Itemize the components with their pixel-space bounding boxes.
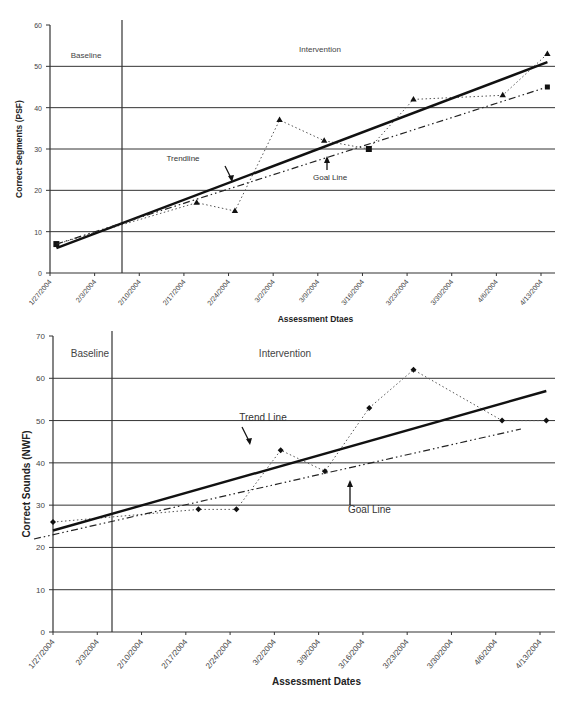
y-tick-label: 30 xyxy=(34,146,42,153)
x-tick-label: 4/13/2004 xyxy=(514,637,544,670)
x-tick-label: 3/9/2004 xyxy=(298,278,321,303)
triangle-marker xyxy=(410,96,416,102)
y-tick-label: 10 xyxy=(34,229,42,236)
nwf-chart-canvas: 0102030405060701/27/20042/3/20042/10/200… xyxy=(0,330,572,703)
trendline-annotation: Trendline xyxy=(166,154,200,163)
goal-line-arrowhead-icon xyxy=(347,480,353,487)
y-tick-label: 40 xyxy=(36,459,45,468)
triangle-marker xyxy=(544,50,550,56)
x-tick-label: 2/17/2004 xyxy=(161,278,186,306)
triangle-marker xyxy=(193,199,199,205)
triangle-marker xyxy=(276,117,282,123)
x-tick-label: 2/10/2004 xyxy=(115,637,145,670)
diamond-marker xyxy=(278,447,284,453)
x-tick-label: 2/24/2004 xyxy=(206,278,231,306)
diamond-marker xyxy=(543,418,549,424)
trendline-annotation: Trend Line xyxy=(239,412,287,423)
y-tick-label: 70 xyxy=(36,332,45,341)
x-tick-label: 4/6/2004 xyxy=(472,637,499,667)
x-tick-label: 2/10/2004 xyxy=(117,278,142,306)
trend-line-line xyxy=(53,391,546,531)
intervention-label: Intervention xyxy=(259,348,311,359)
diamond-marker xyxy=(366,405,372,411)
psf-chart: 01020304050601/27/20042/3/20042/10/20042… xyxy=(0,0,572,330)
y-tick-label: 10 xyxy=(36,586,45,595)
x-tick-label: 3/9/2004 xyxy=(295,637,322,667)
goal-line-line xyxy=(34,429,521,539)
baseline-label: Baseline xyxy=(71,348,110,359)
x-tick-label: 3/23/2004 xyxy=(384,278,409,306)
goal-line-line xyxy=(56,87,547,244)
x-tick-label: 4/6/2004 xyxy=(476,278,499,303)
x-tick-label: 3/16/2004 xyxy=(337,637,367,670)
y-tick-label: 40 xyxy=(34,105,42,112)
x-tick-label: 2/3/2004 xyxy=(74,637,101,667)
triangle-marker xyxy=(232,208,238,214)
y-tick-label: 30 xyxy=(36,501,45,510)
y-tick-label: 0 xyxy=(41,628,46,637)
trendline-arrowhead-icon xyxy=(246,438,252,445)
x-tick-label: 2/17/2004 xyxy=(160,637,190,670)
y-axis-label: Correct Segments (PSF) xyxy=(14,100,24,198)
x-tick-label: 3/2/2004 xyxy=(253,278,276,303)
scores-line xyxy=(53,370,546,522)
x-tick-label: 2/24/2004 xyxy=(204,637,234,670)
x-tick-label: 1/27/2004 xyxy=(27,637,57,670)
x-axis-label: Assessment Dtaes xyxy=(278,314,354,324)
x-tick-label: 3/23/2004 xyxy=(381,637,411,670)
x-axis-label: Assessment Dates xyxy=(272,676,361,687)
diamond-marker xyxy=(411,367,417,373)
x-tick-label: 1/27/2004 xyxy=(27,278,52,306)
diamond-marker xyxy=(195,506,201,512)
goal-line-annotation: Goal Line xyxy=(348,504,391,515)
y-tick-label: 60 xyxy=(34,22,42,29)
x-tick-label: 3/30/2004 xyxy=(429,278,454,306)
y-tick-label: 50 xyxy=(34,63,42,70)
x-tick-label: 2/3/2004 xyxy=(75,278,98,303)
x-tick-label: 3/16/2004 xyxy=(340,278,365,306)
square-marker xyxy=(366,146,372,152)
goal-end-marker xyxy=(545,85,550,90)
x-tick-label: 4/13/2004 xyxy=(518,278,543,306)
diamond-marker xyxy=(233,506,239,512)
y-tick-label: 60 xyxy=(36,374,45,383)
y-axis-label: Correct Sounds (NWF) xyxy=(21,430,32,537)
goal-line-annotation: Goal Line xyxy=(313,173,348,182)
x-tick-label: 3/2/2004 xyxy=(251,637,278,667)
intervention-label: Intervention xyxy=(299,45,341,54)
diamond-marker xyxy=(499,418,505,424)
diamond-marker xyxy=(50,519,56,525)
y-tick-label: 20 xyxy=(36,543,45,552)
psf-chart-canvas: 01020304050601/27/20042/3/20042/10/20042… xyxy=(0,0,572,330)
baseline-label: Baseline xyxy=(71,51,102,60)
y-tick-label: 50 xyxy=(36,417,45,426)
y-tick-label: 20 xyxy=(34,187,42,194)
nwf-chart: 0102030405060701/27/20042/3/20042/10/200… xyxy=(0,330,572,703)
y-tick-label: 0 xyxy=(38,270,42,277)
x-tick-label: 3/30/2004 xyxy=(425,637,455,670)
